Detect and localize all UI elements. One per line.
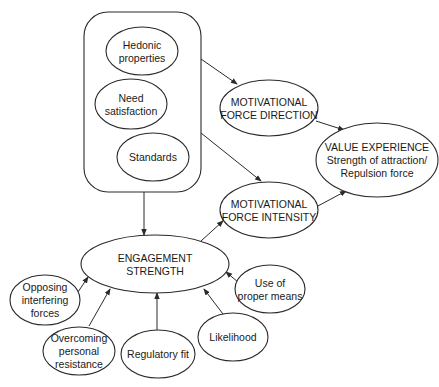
direction-label-line: FORCE DIRECTION xyxy=(220,109,317,121)
value-creation-diagram: HedonicpropertiesNeedsatisfactionStandar… xyxy=(0,0,439,387)
standards-label-line: Standards xyxy=(129,151,177,163)
engagement-label-line: ENGAGEMENT xyxy=(118,252,193,264)
regulatory-label-line: Regulatory fit xyxy=(127,348,189,360)
node-likelihood: Likelihood xyxy=(198,313,268,361)
value-label-line: Strength of attraction/ xyxy=(327,154,427,166)
opposing-label-line: Opposing xyxy=(23,281,68,293)
opposing-label-line: forces xyxy=(31,307,60,319)
overcoming-label-line: Overcoming xyxy=(51,332,108,344)
opposing-label-line: interfering xyxy=(22,294,69,306)
nodes-layer: HedonicpropertiesNeedsatisfactionStandar… xyxy=(10,27,438,378)
node-overcoming: Overcomingpersonalresistance xyxy=(43,327,115,375)
arrow-intensity-to-value xyxy=(316,191,346,207)
node-opposing: Opposinginterferingforces xyxy=(10,275,80,325)
arrow-opposing-to-engagement xyxy=(78,277,88,292)
node-need: Needsatisfaction xyxy=(95,79,167,129)
arrow-container-to-direction xyxy=(201,59,237,84)
node-standards: Standards xyxy=(117,133,189,181)
means-label-line: proper means xyxy=(238,290,303,302)
direction-label-line: MOTIVATIONAL xyxy=(231,96,308,108)
node-means: Use ofproper means xyxy=(235,265,305,313)
intensity-label-line: MOTIVATIONAL xyxy=(231,198,308,210)
node-direction: MOTIVATIONALFORCE DIRECTION xyxy=(220,80,318,136)
value-label-line: VALUE EXPERIENCE xyxy=(325,141,429,153)
arrow-container-to-intensity xyxy=(201,133,261,181)
node-intensity: MOTIVATIONALFORCE INTENSITY xyxy=(220,182,318,238)
arrow-overcoming-to-engagement xyxy=(89,289,110,326)
node-engagement: ENGAGEMENTSTRENGTH xyxy=(81,235,229,293)
arrow-direction-to-value xyxy=(316,121,344,130)
overcoming-label-line: personal xyxy=(59,345,99,357)
node-hedonic: Hedonicproperties xyxy=(106,27,178,75)
intensity-label-line: FORCE INTENSITY xyxy=(222,211,317,223)
node-value: VALUE EXPERIENCEStrength of attraction/R… xyxy=(316,123,438,197)
hedonic-label-line: Hedonic xyxy=(123,39,162,51)
arrow-engagement-to-intensity xyxy=(201,221,223,241)
means-label-line: Use of xyxy=(255,277,285,289)
arrow-likelihood-to-engagement xyxy=(204,289,223,314)
likelihood-label-line: Likelihood xyxy=(209,331,256,343)
need-label-line: Need xyxy=(118,92,143,104)
overcoming-label-line: resistance xyxy=(55,358,103,370)
need-label-line: satisfaction xyxy=(105,105,158,117)
arrow-means-to-engagement xyxy=(226,272,238,282)
hedonic-label-line: properties xyxy=(119,52,166,64)
value-label-line: Repulsion force xyxy=(341,167,414,179)
node-regulatory: Regulatory fit xyxy=(121,330,195,378)
engagement-label-line: STRENGTH xyxy=(126,265,184,277)
